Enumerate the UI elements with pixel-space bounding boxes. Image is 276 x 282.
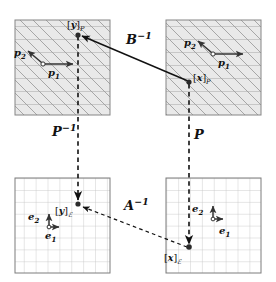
coord-label-x-E: [x]ℰ (164, 252, 181, 266)
basis-subscript-E: ℰ (68, 211, 72, 219)
vector-index: 1 (225, 62, 230, 71)
operator-symbol-P: P (194, 127, 204, 142)
operator-exponent-B: −1 (137, 30, 152, 41)
operator-exponent-A: −1 (134, 196, 149, 207)
vector-letter: p (48, 67, 55, 78)
vector-letter: p (218, 57, 225, 68)
operator-exponent-P-inv: −1 (62, 122, 77, 133)
vector-index: 1 (55, 72, 60, 81)
point-y-P (75, 32, 80, 37)
coord-label-y-P: [y]P (67, 19, 84, 33)
operator-label-P-inverse: P−1 (52, 122, 77, 139)
vector-index: 1 (51, 235, 56, 244)
vector-label-p1-topright: p1 (218, 57, 230, 71)
vector-label-e1-bottomright: e1 (219, 225, 230, 239)
vector-label-p1-topleft: p1 (48, 67, 60, 81)
coord-label-y-E: [y]ℰ (55, 205, 72, 219)
basis-subscript-E: ℰ (177, 258, 181, 266)
vector-label-p2-topright: p2 (184, 37, 196, 51)
vector-index: 2 (21, 52, 26, 61)
vector-label-p2-topleft: p2 (14, 47, 26, 61)
point-x-P (186, 79, 191, 84)
vector-index: 2 (198, 208, 203, 217)
panel-bottom-left (15, 178, 110, 273)
point-y-E (75, 201, 80, 206)
vector-index: 2 (191, 42, 196, 51)
vector-index: 1 (225, 230, 230, 239)
vector-letter: p (14, 47, 21, 58)
vector-label-e2-bottomleft: e2 (28, 211, 39, 225)
basis-subscript-P: P (206, 78, 210, 86)
vector-letter: p (184, 37, 191, 48)
panel-top-right (166, 20, 261, 115)
operator-symbol-A: A (124, 198, 134, 213)
vector-index: 2 (34, 216, 39, 225)
operator-label-P: P (194, 125, 204, 142)
vector-label-e2-bottomright: e2 (192, 203, 203, 217)
basis-subscript-P: P (80, 25, 84, 33)
operator-label-A-inverse: A−1 (124, 196, 149, 213)
vector-label-e1-bottomleft: e1 (45, 230, 56, 244)
operator-symbol-P-inv: P (52, 124, 62, 139)
diagram-root: B−1 P−1 P A−1 [y]P [x]P [y]ℰ [x]ℰ p1 p2 … (0, 0, 276, 282)
coord-label-x-P: [x]P (193, 72, 211, 86)
panel-top-left (15, 20, 110, 115)
operator-symbol-B: B (126, 32, 137, 47)
point-x-E (186, 244, 192, 250)
operator-label-B-inverse: B−1 (126, 30, 152, 47)
